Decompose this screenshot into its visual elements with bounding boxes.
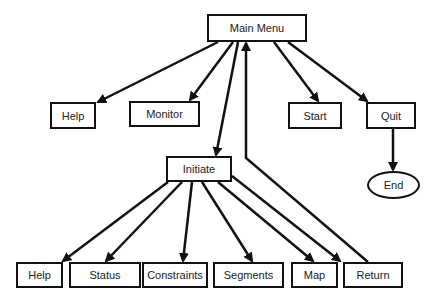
node-quit: Quit <box>366 102 416 129</box>
node-help-bottom: Help <box>16 262 63 288</box>
node-label: Map <box>304 269 325 281</box>
node-label: Start <box>303 110 326 122</box>
node-help-top: Help <box>50 102 96 129</box>
arrow-main-menu-to-start <box>274 42 318 101</box>
node-label: Help <box>62 110 85 122</box>
node-end: End <box>367 171 420 199</box>
node-status: Status <box>69 262 141 288</box>
node-label: Quit <box>381 110 401 122</box>
arrow-initiate-to-constraints <box>183 182 192 261</box>
node-label: Initiate <box>183 163 215 175</box>
node-monitor: Monitor <box>129 101 200 127</box>
arrow-initiate-to-segments <box>202 182 252 261</box>
node-initiate: Initiate <box>166 156 232 182</box>
node-label: Constraints <box>147 269 203 281</box>
arrow-return-to-main-menu <box>246 43 368 262</box>
node-label: Help <box>28 269 51 281</box>
node-return: Return <box>343 262 403 288</box>
node-label: Segments <box>224 269 274 281</box>
node-label: Monitor <box>146 108 183 120</box>
node-segments: Segments <box>213 262 284 288</box>
node-main-menu: Main Menu <box>207 14 307 42</box>
arrow-initiate-to-map <box>218 182 313 261</box>
arrow-main-menu-to-help-top <box>98 42 218 102</box>
arrow-initiate-to-return <box>232 176 340 261</box>
node-start: Start <box>288 102 342 129</box>
edges-layer <box>0 0 432 303</box>
node-label: Main Menu <box>230 22 284 34</box>
arrow-main-menu-to-quit <box>288 42 367 101</box>
node-label: Status <box>89 269 120 281</box>
arrow-initiate-to-help-bottom <box>63 182 168 261</box>
node-constraints: Constraints <box>142 262 208 288</box>
node-label: Return <box>356 269 389 281</box>
node-label: End <box>384 179 404 191</box>
arrow-main-menu-to-monitor <box>190 42 233 100</box>
node-map: Map <box>291 262 338 288</box>
